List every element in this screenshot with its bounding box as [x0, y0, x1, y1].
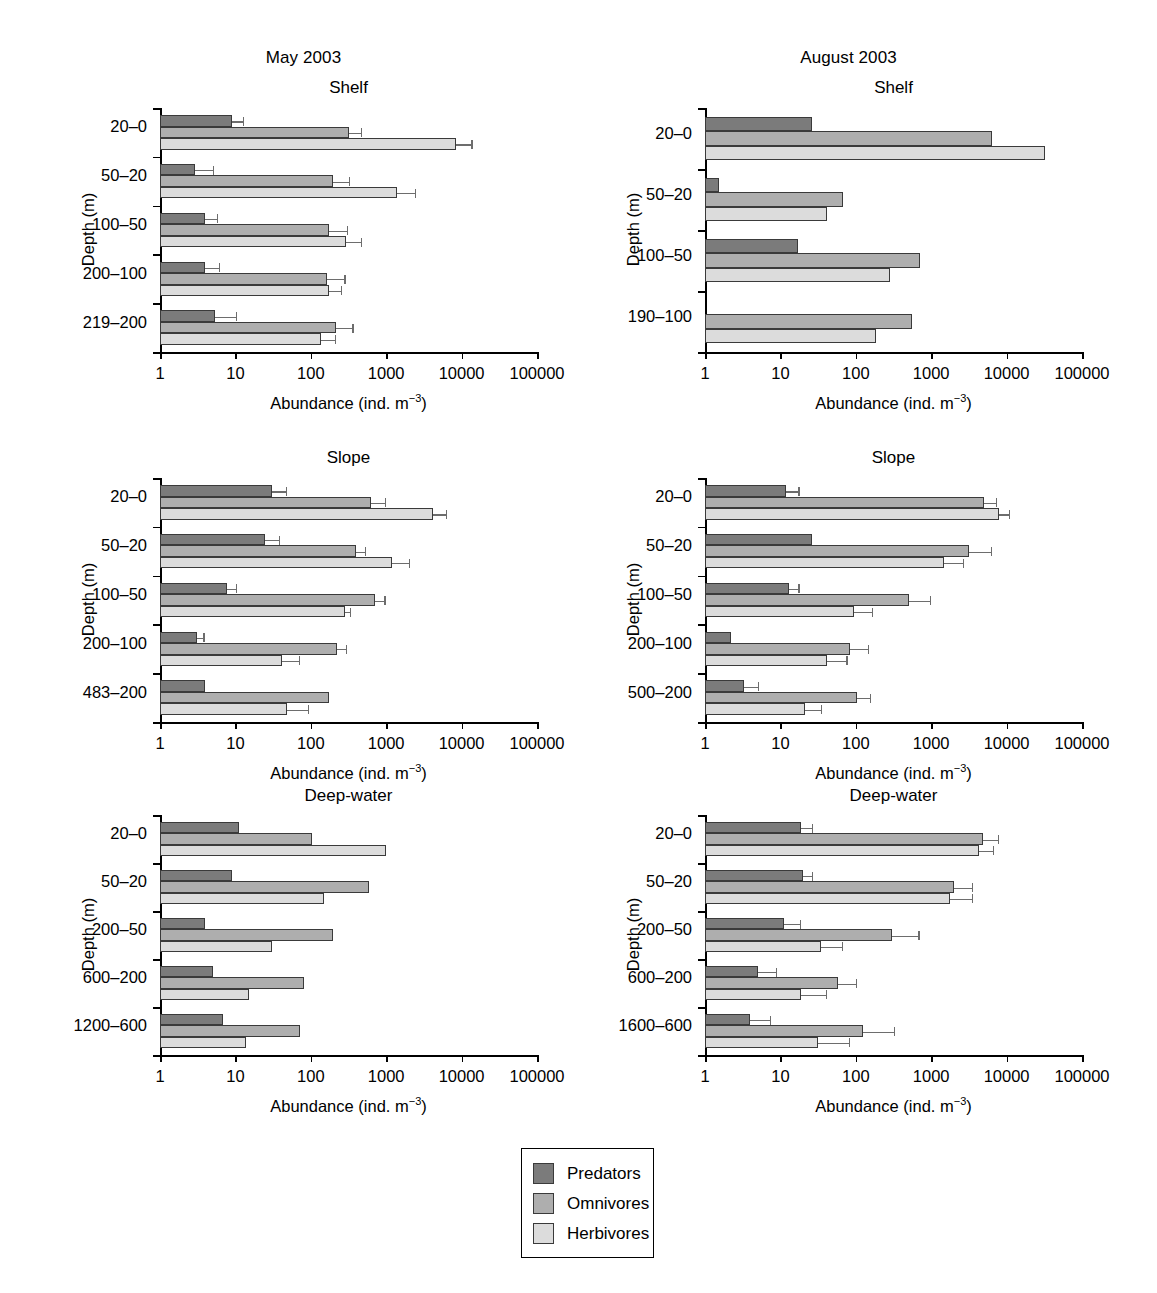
legend-item[interactable]: Omnivores: [533, 1188, 639, 1218]
error-bar-cap: [346, 645, 347, 654]
x-axis-title-close: ): [421, 1097, 427, 1115]
y-tick: [698, 352, 705, 354]
x-axis-title-main: Abundance (ind. m: [815, 394, 954, 412]
y-tick: [153, 478, 160, 480]
y-tick: [153, 157, 160, 159]
legend-swatch-omnivores: [533, 1193, 554, 1214]
y-tick: [153, 108, 160, 110]
error-bar: [215, 312, 237, 321]
y-tick: [698, 291, 705, 293]
x-tick-label: 100: [842, 364, 870, 383]
legend-item[interactable]: Herbivores: [533, 1218, 639, 1248]
legend-item[interactable]: Predators: [533, 1158, 639, 1188]
error-bar: [456, 140, 472, 149]
x-tick: [462, 352, 464, 359]
y-tick-label: 20–0: [0, 117, 147, 136]
x-tick-label: 1: [700, 364, 709, 383]
bar-omnivores: [705, 833, 983, 844]
x-tick: [780, 1055, 782, 1062]
x-axis-line: [160, 722, 537, 724]
bar-herbivores: [705, 845, 979, 856]
error-bar: [801, 824, 813, 833]
y-tick: [698, 108, 705, 110]
error-bar-line: [287, 710, 309, 711]
error-bar-cap: [996, 498, 997, 507]
bar-herbivores: [160, 893, 324, 904]
y-tick: [698, 673, 705, 675]
x-tick: [537, 1055, 539, 1062]
x-tick: [705, 1055, 707, 1062]
error-bar-cap: [347, 226, 348, 235]
error-bar: [954, 883, 973, 892]
x-tick-label: 1000: [368, 364, 405, 383]
error-bar: [950, 894, 973, 903]
bar-predators: [160, 822, 239, 833]
legend: PredatorsOmnivoresHerbivores: [521, 1148, 654, 1258]
x-tick: [235, 722, 237, 729]
x-axis-title-close: ): [966, 764, 972, 782]
y-tick-label: 600–200: [532, 968, 692, 987]
error-bar: [397, 189, 416, 198]
x-tick: [705, 352, 707, 359]
bar-predators: [705, 822, 801, 833]
error-bar: [838, 979, 857, 988]
x-tick-label: 1: [155, 1067, 164, 1086]
x-tick-label: 10000: [984, 1067, 1030, 1086]
x-tick-label: 1: [155, 364, 164, 383]
error-bar-cap: [365, 547, 366, 556]
bar-omnivores: [160, 127, 349, 139]
y-tick-label: 1600–600: [532, 1016, 692, 1035]
bar-herbivores: [705, 606, 854, 618]
y-tick-label: 200–100: [0, 263, 147, 282]
x-tick-label: 10000: [439, 1067, 485, 1086]
bar-herbivores: [160, 989, 249, 1000]
error-bar-cap: [998, 835, 999, 844]
y-tick: [153, 206, 160, 208]
x-axis-title-close: ): [966, 394, 972, 412]
error-bar: [356, 547, 366, 556]
bar-predators: [705, 178, 719, 192]
bar-predators: [705, 534, 812, 546]
x-tick: [537, 352, 539, 359]
x-axis-title: Abundance (ind. m−3): [160, 1095, 537, 1116]
bar-predators: [160, 534, 265, 546]
y-tick: [153, 1055, 160, 1057]
error-bar-line: [282, 661, 300, 662]
y-tick-label: 20–0: [0, 487, 147, 506]
bar-omnivores: [160, 881, 369, 892]
y-tick: [698, 959, 705, 961]
y-tick: [153, 1007, 160, 1009]
y-tick-label: 483–200: [0, 682, 147, 701]
bar-herbivores: [705, 329, 876, 343]
x-axis-title-main: Abundance (ind. m: [270, 1097, 409, 1115]
legend-swatch-herbivores: [533, 1223, 554, 1244]
error-bar-line: [329, 231, 348, 232]
error-bar-cap: [308, 705, 309, 714]
bar-omnivores: [160, 175, 333, 187]
y-tick: [698, 1055, 705, 1057]
error-bar-cap: [776, 968, 777, 977]
bar-omnivores: [705, 929, 892, 940]
error-bar-cap: [894, 1027, 895, 1036]
x-tick: [160, 722, 162, 729]
error-bar-line: [456, 144, 472, 145]
x-tick-label: 10000: [984, 734, 1030, 753]
error-bar-cap: [770, 1016, 771, 1025]
y-tick: [153, 352, 160, 354]
y-tick: [698, 722, 705, 724]
x-tick-label: 100: [297, 734, 325, 753]
bar-omnivores: [160, 273, 327, 285]
x-tick: [1082, 352, 1084, 359]
error-bar-cap: [930, 596, 931, 605]
y-tick-label: 100–50: [0, 215, 147, 234]
error-bar-cap: [344, 275, 345, 284]
error-bar-line: [854, 612, 873, 613]
x-axis-title: Abundance (ind. m−3): [705, 762, 1082, 783]
x-tick-label: 1000: [913, 734, 950, 753]
bar-herbivores: [705, 268, 890, 282]
column-title-august: August 2003: [615, 48, 1082, 68]
error-bar: [983, 835, 1000, 844]
error-bar-cap: [758, 682, 759, 691]
bar-omnivores: [705, 192, 843, 206]
bar-predators: [160, 164, 195, 176]
